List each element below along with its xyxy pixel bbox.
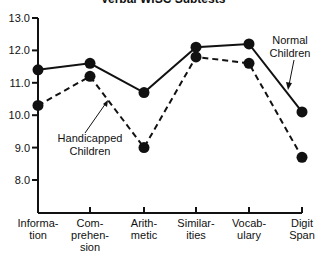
data-point bbox=[85, 71, 96, 82]
x-tick-label: prehen- bbox=[71, 229, 109, 241]
data-point bbox=[33, 100, 44, 111]
data-point bbox=[244, 58, 255, 69]
x-tick-label: metic bbox=[131, 229, 158, 241]
data-point bbox=[244, 38, 255, 49]
data-point bbox=[191, 51, 202, 62]
y-tick-label: 11.0 bbox=[9, 77, 30, 89]
data-point bbox=[139, 87, 150, 98]
data-point bbox=[85, 58, 96, 69]
x-tick-label: Vocab- bbox=[232, 217, 267, 229]
handicapped-arrow bbox=[85, 103, 106, 133]
y-tick-label: 9.0 bbox=[15, 142, 30, 154]
normal-children-label: Normal bbox=[272, 34, 307, 46]
data-point bbox=[33, 64, 44, 75]
x-tick-label: Similar- bbox=[177, 217, 215, 229]
normal-arrow bbox=[289, 60, 294, 85]
normal-children-label: Children bbox=[270, 47, 311, 59]
data-point bbox=[191, 42, 202, 53]
line-chart: 13.012.011.010.09.08.0Informa-tionCom-pr… bbox=[0, 0, 326, 256]
x-tick-label: ulary bbox=[237, 229, 261, 241]
data-point bbox=[139, 142, 150, 153]
data-point bbox=[297, 152, 308, 163]
x-tick-label: Arith- bbox=[131, 217, 158, 229]
y-tick-label: 10.0 bbox=[9, 109, 30, 121]
data-point bbox=[297, 106, 308, 117]
handicapped-children-label: Children bbox=[70, 145, 111, 157]
x-tick-label: Digit bbox=[291, 217, 313, 229]
x-tick-label: Informa- bbox=[18, 217, 59, 229]
y-tick-label: 13.0 bbox=[9, 12, 30, 24]
y-tick-label: 12.0 bbox=[9, 44, 30, 56]
arrow-head-icon bbox=[286, 82, 292, 90]
x-tick-label: sion bbox=[80, 241, 100, 253]
x-tick-label: Span bbox=[289, 229, 315, 241]
y-tick-label: 8.0 bbox=[15, 174, 30, 186]
x-tick-label: tion bbox=[29, 229, 47, 241]
x-tick-label: ities bbox=[186, 229, 206, 241]
x-tick-label: Com- bbox=[77, 217, 104, 229]
handicapped-children-label: Handicapped bbox=[58, 132, 123, 144]
